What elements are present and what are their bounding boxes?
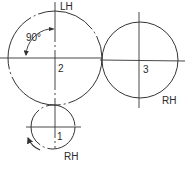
gear-3-number-label: 3 (143, 64, 149, 75)
rotation-arrow-icon (28, 138, 40, 150)
gear-3-horizontal-centerline (100, 60, 185, 61)
gear-train-diagram: LH 90° 2 3 RH 1 RH (0, 0, 188, 170)
gear-2 (0, 2, 102, 148)
gear-2-hand-label: LH (60, 1, 73, 12)
gear-3-hand-label: RH (162, 95, 176, 106)
angle-label: 90° (26, 32, 41, 43)
gear-1-number-label: 1 (57, 131, 63, 142)
angle-arrowhead-top-icon (49, 27, 55, 31)
gear-1-hand-label: RH (64, 151, 78, 162)
gear-2-number-label: 2 (58, 63, 64, 74)
gear-1 (26, 105, 81, 149)
gear-3 (100, 12, 185, 108)
